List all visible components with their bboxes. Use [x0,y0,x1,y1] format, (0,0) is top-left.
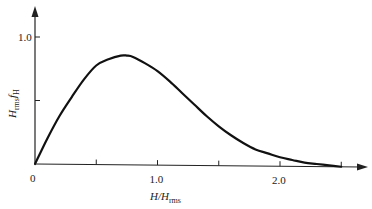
y-axis-label: HrmsfH [6,89,21,119]
x-tick-label: 1.0 [150,173,164,185]
y-ticks: 1.0 [18,31,40,101]
data-curve [35,55,341,167]
y-axis-arrow-icon [32,6,39,17]
chart: 1.0 1.02.0 0 H/Hrms HrmsfH [0,0,372,209]
origin-label: 0 [30,172,36,184]
y-tick-label: 1.0 [18,31,32,43]
x-tick-label: 2.0 [272,174,286,186]
x-axis-label: H/Hrms [149,190,181,205]
x-axis-arrow-icon [357,164,368,171]
